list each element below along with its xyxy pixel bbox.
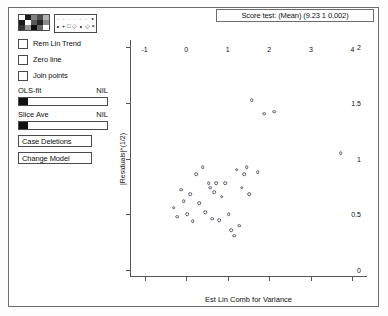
data-point[interactable]	[218, 218, 222, 222]
data-point[interactable]	[191, 219, 195, 223]
data-point[interactable]	[185, 213, 189, 217]
y-axis-tick	[126, 270, 130, 271]
data-point[interactable]	[248, 192, 252, 196]
data-point[interactable]	[250, 99, 254, 103]
slider-thumb-slice-ave[interactable]	[19, 122, 28, 129]
data-point[interactable]	[214, 181, 218, 185]
y-axis-tick-label: 1.5	[351, 99, 361, 106]
x-axis-title: Est Lin Comb for Variance	[205, 295, 292, 304]
checkbox-zero-line[interactable]	[18, 55, 28, 65]
scatter-plot: |Residuals|^(1/2) Est Lin Comb for Varia…	[130, 40, 367, 277]
data-point[interactable]	[263, 112, 267, 116]
color-palette[interactable]	[18, 14, 50, 31]
checkbox-label-zero-line: Zero line	[33, 55, 61, 64]
slider-block-slice-ave: Slice Ave NIL	[18, 110, 114, 130]
data-point[interactable]	[198, 201, 202, 205]
data-point[interactable]	[208, 186, 212, 190]
slider-label-ols-fit: OLS-fit	[18, 86, 41, 95]
data-point[interactable]	[213, 190, 217, 194]
checkbox-row-zero-line[interactable]: Zero line	[18, 54, 114, 65]
data-point[interactable]	[175, 215, 179, 219]
symbol-palette-row-bottom: ∘+□◇∘◇×	[55, 23, 96, 29]
slider-value-slice-ave: NIL	[96, 110, 108, 119]
slider-thumb-ols-fit[interactable]	[19, 98, 28, 105]
data-point[interactable]	[272, 110, 276, 114]
symbol-swatch[interactable]: ∘	[79, 23, 83, 29]
y-axis-tick-label: 0.5	[351, 211, 361, 218]
x-axis-tick-label: -1	[141, 46, 147, 53]
data-point[interactable]	[243, 172, 247, 176]
data-point[interactable]	[223, 181, 227, 185]
checkbox-label-join-points: Join points	[33, 71, 68, 80]
slider-header-ols-fit: OLS-fit NIL	[18, 86, 108, 95]
slider-track-slice-ave[interactable]	[18, 121, 108, 130]
data-point[interactable]	[256, 170, 260, 174]
symbol-palette-row-top: ······∘	[55, 16, 96, 22]
symbol-swatch[interactable]: ∘	[91, 16, 94, 22]
data-point[interactable]	[188, 192, 192, 196]
symbol-swatch[interactable]: ◇	[72, 23, 77, 29]
score-test-readout: Score test: (Mean) (9.23 1 0.002)	[216, 9, 374, 22]
symbol-swatch[interactable]: ∘	[56, 23, 60, 29]
data-point[interactable]	[179, 188, 183, 192]
color-swatch[interactable]	[43, 25, 49, 30]
x-axis-tick	[145, 277, 146, 281]
data-point[interactable]	[194, 172, 198, 176]
symbol-swatch[interactable]: ·	[74, 16, 76, 22]
slider-value-ols-fit: NIL	[96, 86, 108, 95]
symbol-swatch[interactable]: ·	[68, 16, 70, 22]
data-point[interactable]	[220, 195, 224, 199]
data-point[interactable]	[233, 234, 237, 238]
y-axis-tick-label: 2	[357, 43, 361, 50]
x-axis-tick-label: 1	[226, 46, 230, 53]
x-axis-tick	[352, 277, 353, 281]
x-axis-tick	[186, 277, 187, 281]
checkbox-join-points[interactable]	[18, 71, 28, 81]
data-point[interactable]	[172, 206, 176, 210]
y-axis-tick-label: 1	[357, 155, 361, 162]
x-axis-tick-label: 0	[184, 46, 188, 53]
y-axis-tick	[126, 103, 130, 104]
palette-row: ······∘ ∘+□◇∘◇×	[18, 14, 114, 33]
x-axis-line	[130, 276, 367, 277]
slider-track-ols-fit[interactable]	[18, 97, 108, 106]
symbol-swatch[interactable]: ·	[63, 16, 65, 22]
data-point[interactable]	[245, 166, 249, 170]
checkbox-rem-lin-trend[interactable]	[18, 39, 28, 49]
data-point[interactable]	[229, 228, 233, 232]
data-point[interactable]	[240, 186, 244, 190]
symbol-swatch[interactable]: +	[62, 23, 66, 29]
symbol-palette[interactable]: ······∘ ∘+□◇∘◇×	[54, 14, 97, 33]
symbol-swatch[interactable]: ·	[57, 16, 59, 22]
checkbox-row-join-points[interactable]: Join points	[18, 70, 114, 81]
data-point[interactable]	[182, 199, 186, 203]
control-panel: ······∘ ∘+□◇∘◇× Rem Lin Trend Zero line …	[18, 14, 114, 164]
y-axis-tick-label: 0	[357, 267, 361, 274]
symbol-swatch[interactable]: ×	[92, 23, 96, 29]
symbol-swatch[interactable]: ·	[85, 16, 87, 22]
case-deletions-button[interactable]: Case Deletions	[18, 135, 92, 147]
symbol-swatch[interactable]: □	[67, 23, 71, 29]
x-axis-tick	[311, 277, 312, 281]
app-root: ······∘ ∘+□◇∘◇× Rem Lin Trend Zero line …	[0, 0, 388, 316]
y-axis-tick	[126, 214, 130, 215]
data-point[interactable]	[227, 213, 231, 217]
x-axis-tick-label: 3	[309, 46, 313, 53]
data-point[interactable]	[238, 224, 242, 228]
change-model-button[interactable]: Change Model	[18, 152, 92, 164]
x-axis-tick	[228, 277, 229, 281]
data-point[interactable]	[235, 168, 239, 172]
data-point[interactable]	[339, 151, 343, 155]
slider-header-slice-ave: Slice Ave NIL	[18, 110, 108, 119]
symbol-swatch[interactable]: ·	[80, 16, 82, 22]
x-axis-tick	[269, 277, 270, 281]
data-point[interactable]	[207, 181, 211, 185]
checkbox-label-rem-lin-trend: Rem Lin Trend	[33, 39, 81, 48]
data-point[interactable]	[201, 166, 205, 170]
data-point[interactable]	[203, 210, 207, 214]
y-axis-tick	[126, 47, 130, 48]
symbol-swatch[interactable]: ◇	[85, 23, 90, 29]
checkbox-row-rem-lin-trend[interactable]: Rem Lin Trend	[18, 38, 114, 49]
data-point[interactable]	[210, 217, 214, 221]
y-axis-line	[130, 40, 131, 277]
